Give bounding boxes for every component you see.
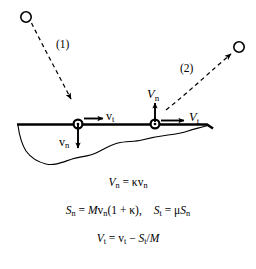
eq2-sn-subscript: n [72,209,76,218]
eq2-mass-symbol: M [88,204,98,216]
V-n-subscript: n [155,93,160,103]
eq3-equals: = [109,232,116,244]
eq2-open-paren: (1 + [107,204,126,216]
V-t-symbol: V [189,110,197,124]
eq3-minus: − [129,232,136,244]
incoming-tangential-velocity-label: vt [106,110,114,124]
incoming-trajectory-label: (1) [56,39,69,51]
eq3-vt-subscript: t [124,237,126,246]
outgoing-trajectory-arrow [166,54,231,110]
eq2-st-subscript: t [160,209,162,218]
eq2-close-paren: ), [135,204,142,216]
eq1-lhs-subscript: n [115,181,119,190]
V-n-symbol: V [147,87,155,101]
V-t-subscript: t [197,116,200,126]
eq3-lhs-subscript: t [104,237,106,246]
outgoing-trajectory-label: (2) [180,63,193,75]
equation-tangential-velocity: Vt = vt − St/M [0,232,256,246]
outgoing-particle-icon [234,42,244,52]
eq2-equals-1: = [79,204,86,216]
v-n-subscript: n [65,140,69,150]
outgoing-normal-velocity-label: Vn [147,88,159,103]
collision-diagram-figure: (1) (2) vt vn Vt Vn Vn = κvn Sn = Mvn(1 … [0,0,256,269]
diagram-canvas [0,0,256,180]
eq2-equals-2: = [165,204,172,216]
rebound-point-dot-icon [154,123,157,126]
surface-line [17,125,213,129]
equation-impulses: Sn = Mvn(1 + κ),St = μSn [0,204,256,218]
eq2-sn2-subscript: n [186,209,190,218]
outgoing-tangential-velocity-label: Vt [189,111,199,126]
eq1-rhs-subscript: n [143,181,147,190]
eq1-equals: = [122,176,129,188]
v-t-subscript: t [112,114,114,124]
eq3-lhs-symbol: V [97,232,104,244]
incoming-trajectory-arrow [32,23,72,99]
eq3-mass-symbol: M [150,232,160,244]
terrain-cross-section [18,126,207,165]
equation-normal-restitution: Vn = κvn [0,176,256,190]
incoming-particle-icon [21,12,31,22]
incoming-normal-velocity-label: vn [59,136,69,150]
